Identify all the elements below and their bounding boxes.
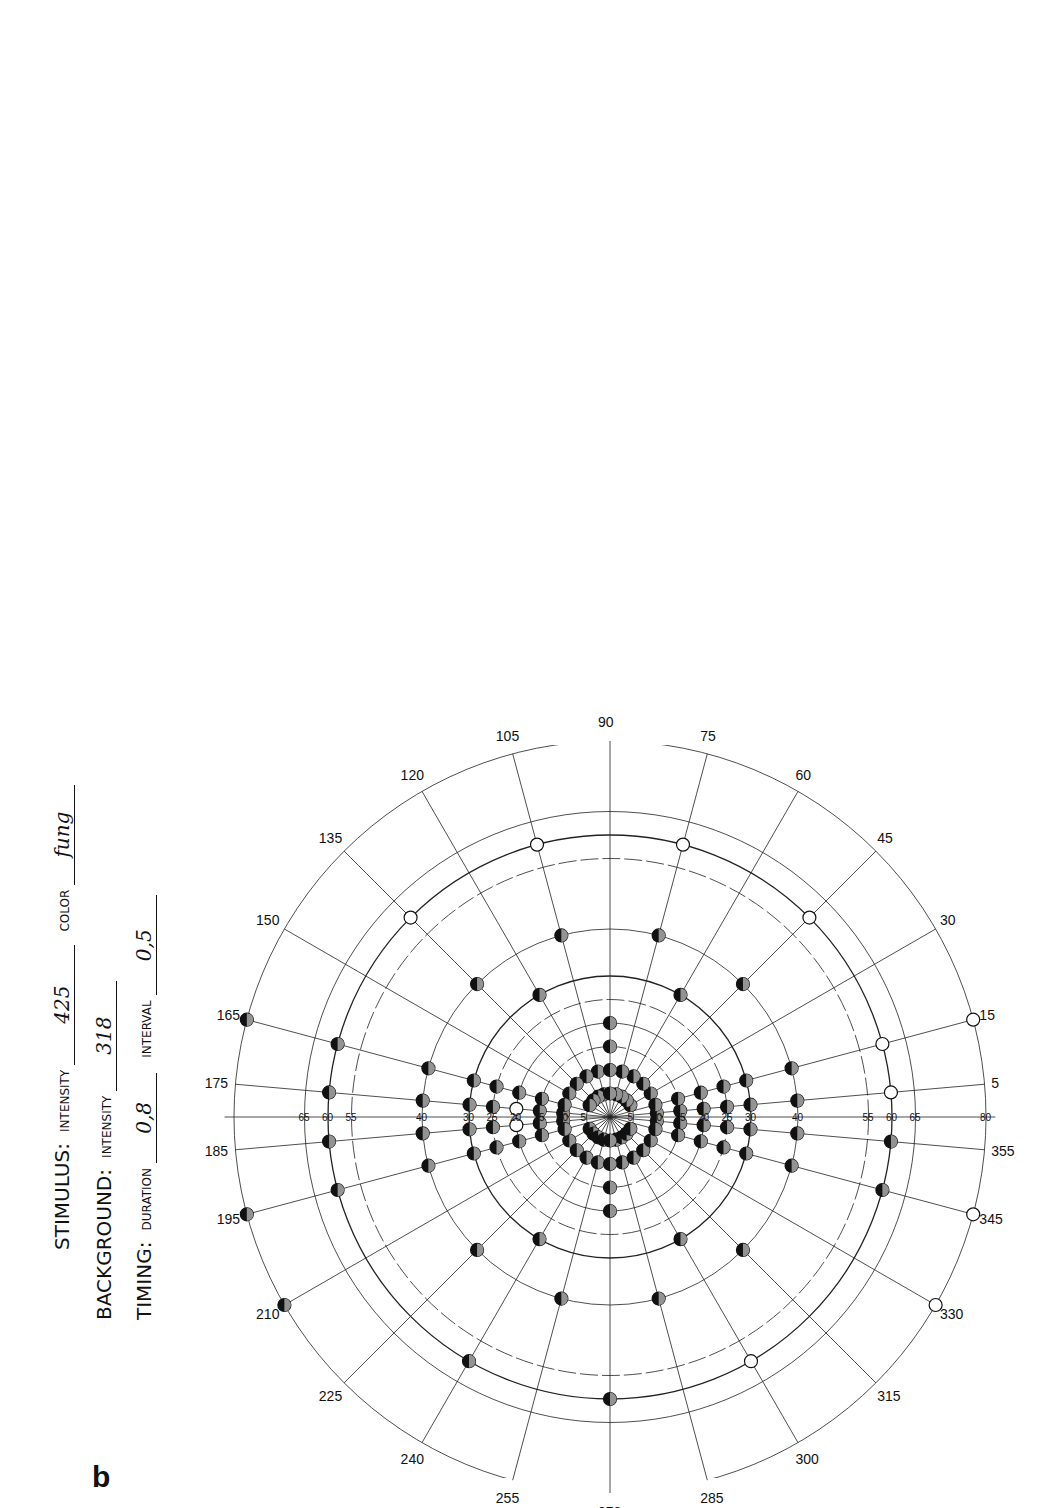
svg-text:40: 40 bbox=[416, 1112, 428, 1123]
test-point-filled bbox=[616, 1156, 629, 1169]
test-point-filled bbox=[240, 1013, 253, 1026]
object-size-row: O1/16 bbox=[63, 506, 147, 521]
test-point-filled bbox=[697, 1102, 710, 1115]
test-point-filled bbox=[604, 1393, 617, 1406]
test-point-filled bbox=[650, 1115, 663, 1128]
test-point-filled bbox=[736, 1243, 749, 1256]
svg-text:0: 0 bbox=[821, 347, 827, 359]
correctio-value: sc bbox=[938, 580, 952, 595]
test-point-filled bbox=[323, 1086, 336, 1099]
svg-text:20: 20 bbox=[510, 1112, 522, 1123]
test-point-filled bbox=[791, 1094, 804, 1107]
test-point-filled bbox=[416, 1094, 429, 1107]
test-point-filled bbox=[672, 1129, 685, 1142]
test-point-filled bbox=[533, 1117, 546, 1130]
test-point-filled bbox=[627, 1151, 640, 1164]
relat-intens-mark: X bbox=[806, 643, 821, 658]
test-point-filled bbox=[535, 1129, 548, 1142]
test-point-filled bbox=[533, 1104, 546, 1117]
svg-text:65: 65 bbox=[910, 1112, 922, 1123]
test-point-open bbox=[803, 911, 816, 924]
svg-text:25: 25 bbox=[722, 1112, 734, 1123]
test-point-filled bbox=[471, 978, 484, 991]
test-point-filled bbox=[604, 1158, 617, 1171]
goldmann-perimetry-chart: 1 01 01 01 02 02 02 02 03 03 03 03 04 04… bbox=[0, 0, 1046, 760]
svg-text:5 0: 5 0 bbox=[265, 342, 278, 352]
svg-text:5 0: 5 0 bbox=[457, 557, 470, 567]
svg-text:270: 270 bbox=[598, 1504, 622, 1508]
polar-grid bbox=[0, 0, 1046, 760]
svg-text:15: 15 bbox=[979, 1007, 995, 1023]
test-point-filled bbox=[610, 1088, 623, 1101]
svg-text:180: 180 bbox=[85, 347, 103, 359]
svg-text:2 0: 2 0 bbox=[385, 342, 398, 352]
stimulus-row: STIMULUS: INTENSITY 425 COLOR fung bbox=[50, 785, 75, 1250]
test-point-filled bbox=[331, 1038, 344, 1051]
stimulus-form: STIMULUS: INTENSITY 425 COLOR fung BACKG… bbox=[40, 760, 220, 1320]
svg-text:8 0: 8 0 bbox=[773, 342, 786, 352]
svg-text:255: 255 bbox=[496, 1490, 520, 1506]
svg-text:150: 150 bbox=[134, 163, 152, 175]
test-point-open bbox=[967, 1013, 980, 1026]
test-point-filled bbox=[674, 988, 687, 1001]
svg-text:165: 165 bbox=[217, 1007, 241, 1023]
test-point-filled bbox=[604, 1087, 617, 1100]
object-size-row: IV16 bbox=[63, 566, 147, 581]
test-point-filled bbox=[785, 1159, 798, 1172]
svg-text:30: 30 bbox=[940, 912, 956, 928]
svg-text:65: 65 bbox=[299, 1112, 311, 1123]
relat-intens-row: IV bbox=[791, 688, 866, 703]
test-point-open bbox=[745, 1355, 758, 1368]
relat-intens-row: III bbox=[791, 673, 866, 688]
svg-text:5 0: 5 0 bbox=[653, 342, 666, 352]
svg-text:15: 15 bbox=[534, 1112, 546, 1123]
test-point-filled bbox=[744, 1098, 757, 1111]
panel-label-b: b bbox=[92, 1460, 110, 1494]
object-size-row: V64 bbox=[63, 581, 147, 596]
test-point-filled bbox=[876, 1183, 889, 1196]
test-point-filled bbox=[422, 1062, 435, 1075]
svg-text:7 0: 7 0 bbox=[457, 75, 470, 85]
test-point-filled bbox=[604, 1064, 617, 1077]
test-point-filled bbox=[422, 1159, 435, 1172]
svg-text:5: 5 bbox=[581, 1112, 587, 1123]
test-point-filled bbox=[490, 1080, 503, 1093]
test-point-filled bbox=[463, 1098, 476, 1111]
test-point-filled bbox=[587, 1127, 600, 1140]
test-point-filled bbox=[513, 1086, 526, 1099]
test-point-filled bbox=[740, 1074, 753, 1087]
svg-text:1 0: 1 0 bbox=[425, 342, 438, 352]
test-point-filled bbox=[649, 1123, 662, 1136]
svg-text:30: 30 bbox=[463, 1112, 475, 1123]
svg-text:355: 355 bbox=[991, 1143, 1015, 1159]
svg-text:1 0: 1 0 bbox=[493, 342, 506, 352]
test-point-filled bbox=[717, 1080, 730, 1093]
svg-text:5 0: 5 0 bbox=[457, 155, 470, 165]
svg-text:55: 55 bbox=[346, 1112, 358, 1123]
svg-text:7 0: 7 0 bbox=[185, 342, 198, 352]
test-point-filled bbox=[615, 1090, 628, 1103]
color-value: fung bbox=[50, 785, 75, 885]
test-point-open bbox=[967, 1208, 980, 1221]
svg-text:10: 10 bbox=[651, 1112, 663, 1123]
isopter-curve bbox=[159, 177, 714, 745]
svg-text:4 0: 4 0 bbox=[457, 195, 470, 205]
test-point-filled bbox=[331, 1183, 344, 1196]
svg-text:60: 60 bbox=[322, 1112, 334, 1123]
svg-text:225: 225 bbox=[193, 607, 211, 619]
test-point-filled bbox=[467, 1074, 480, 1087]
test-point-filled bbox=[604, 1040, 617, 1053]
svg-text:30: 30 bbox=[745, 1112, 757, 1123]
svg-text:5: 5 bbox=[991, 1075, 999, 1091]
test-point-filled bbox=[591, 1065, 604, 1078]
test-point-filled bbox=[580, 1070, 593, 1083]
test-point-filled bbox=[535, 1092, 548, 1105]
svg-text:15: 15 bbox=[675, 1112, 687, 1123]
test-point-filled bbox=[563, 1087, 576, 1100]
object-size-row: III4 bbox=[63, 551, 147, 566]
svg-text:315: 315 bbox=[877, 1388, 901, 1404]
test-point-filled bbox=[533, 988, 546, 1001]
test-point-filled bbox=[674, 1117, 687, 1130]
test-point-filled bbox=[570, 1077, 583, 1090]
test-point-filled bbox=[616, 1065, 629, 1078]
